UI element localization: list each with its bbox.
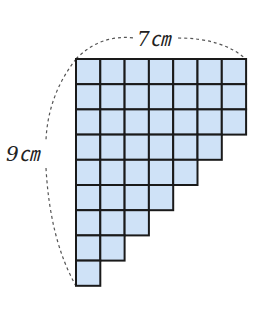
height-dimension-arc xyxy=(46,59,76,140)
grid-cell xyxy=(198,109,222,134)
grid-cell xyxy=(76,84,100,109)
grid-cell xyxy=(149,135,173,160)
grid-cell xyxy=(173,135,197,160)
grid-cell xyxy=(100,135,124,160)
grid-cell xyxy=(125,135,149,160)
grid-cell xyxy=(198,59,222,84)
grid-cell xyxy=(125,160,149,185)
grid-cell xyxy=(149,84,173,109)
grid-cell xyxy=(76,160,100,185)
grid-cell xyxy=(76,135,100,160)
grid-cell xyxy=(100,235,124,260)
grid-cell xyxy=(198,84,222,109)
grid-cell xyxy=(76,235,100,260)
grid-cell xyxy=(125,84,149,109)
grid-cell xyxy=(173,84,197,109)
grid-cell xyxy=(173,109,197,134)
grid-cell xyxy=(100,160,124,185)
grid-cell xyxy=(76,185,100,210)
grid-cell xyxy=(100,109,124,134)
grid-cell xyxy=(125,59,149,84)
grid-cell xyxy=(149,185,173,210)
grid-cell xyxy=(222,109,246,134)
grid-cell xyxy=(76,261,100,286)
grid-cell xyxy=(76,59,100,84)
grid-cell xyxy=(149,160,173,185)
grid-cell xyxy=(100,210,124,235)
grid-cell xyxy=(125,185,149,210)
width-dimension-arc xyxy=(76,37,135,59)
grid-cell xyxy=(100,84,124,109)
grid-cell xyxy=(149,59,173,84)
height-dimension-arc-bottom xyxy=(46,168,76,286)
grid-cell xyxy=(149,109,173,134)
grid-cell xyxy=(222,84,246,109)
width-label: 7㎝ xyxy=(137,29,170,49)
grid-cell xyxy=(125,210,149,235)
height-label: 9㎝ xyxy=(6,144,39,164)
grid-cell xyxy=(222,59,246,84)
grid-cell xyxy=(76,210,100,235)
grid-cell xyxy=(125,109,149,134)
grid-cell xyxy=(173,160,197,185)
grid-cell xyxy=(100,185,124,210)
grid-cell xyxy=(173,59,197,84)
grid-cells xyxy=(76,59,246,286)
grid-cell xyxy=(100,59,124,84)
width-dimension-arc-right xyxy=(178,38,246,59)
grid-cell xyxy=(76,109,100,134)
grid-cell xyxy=(198,135,222,160)
